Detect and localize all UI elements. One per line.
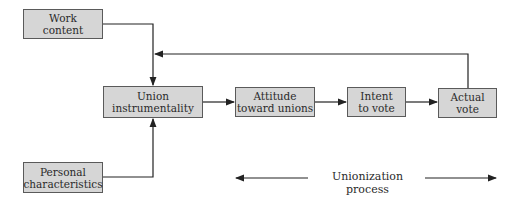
node-label: instrumentality (112, 102, 194, 114)
node-union-instrumentality: Union instrumentality (103, 86, 203, 118)
node-label: Attitude (253, 90, 296, 102)
node-label: to vote (358, 102, 395, 114)
node-label: Work (49, 12, 77, 24)
node-label: Actual (450, 91, 484, 103)
node-intent-to-vote: Intent to vote (347, 87, 406, 117)
node-label: content (43, 24, 83, 36)
node-label: Personal (40, 166, 86, 178)
node-label: Union (137, 90, 169, 102)
edge-work-to-union (103, 24, 153, 85)
node-label: toward unions (237, 102, 313, 114)
unionization-process-label: Unionization process (310, 170, 425, 196)
edge-feedback (155, 54, 468, 88)
node-work-content: Work content (23, 9, 103, 39)
node-label: Intent (360, 90, 392, 102)
node-attitude-toward-unions: Attitude toward unions (235, 87, 315, 117)
node-label: characteristics (23, 178, 102, 190)
edge-personal-to-union (103, 119, 153, 177)
node-personal-characteristics: Personal characteristics (23, 162, 103, 193)
node-actual-vote: Actual vote (438, 88, 497, 118)
node-label: vote (456, 103, 479, 115)
